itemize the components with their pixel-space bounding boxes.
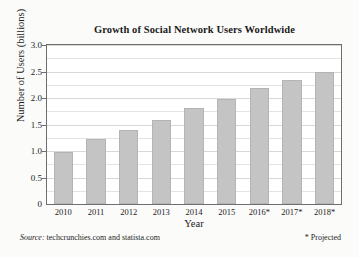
x-tick-label: 2016* (243, 207, 276, 217)
x-tick-label: 2018* (308, 207, 341, 217)
bar (54, 152, 74, 204)
chart-figure: Growth of Social Network Users Worldwide… (0, 0, 359, 257)
bar (119, 130, 139, 204)
bar (315, 72, 335, 205)
y-tick-label: 2.5 (2, 67, 42, 76)
source-label: Source: (20, 233, 45, 242)
x-tick-label: 2013 (145, 207, 178, 217)
y-axis-ticks: 00.51.01.52.02.53.0 (0, 44, 42, 205)
gridline (47, 72, 341, 73)
x-tick-label: 2014 (178, 207, 211, 217)
x-axis-title: Year (46, 218, 342, 229)
y-tick-label: 0 (2, 200, 42, 209)
x-tick-label: 2011 (80, 207, 113, 217)
bar (282, 80, 302, 204)
bar (184, 108, 204, 204)
projected-note: * Projected (305, 233, 341, 242)
y-tick-label: 2.0 (2, 94, 42, 103)
bar (152, 120, 172, 204)
plot-frame (46, 44, 342, 205)
y-tick-label: 1.0 (2, 147, 42, 156)
x-tick-label: 2012 (112, 207, 145, 217)
y-tick-label: 0.5 (2, 173, 42, 182)
gridline (47, 45, 341, 46)
chart-title: Growth of Social Network Users Worldwide (46, 24, 343, 35)
bar (217, 99, 237, 204)
source-note: Source: techcrunchies.com and statista.c… (20, 233, 160, 242)
source-text: techcrunchies.com and statista.com (47, 233, 160, 242)
gridline (47, 58, 341, 59)
bar (86, 139, 106, 204)
plot-area (47, 45, 341, 204)
y-tick-label: 1.5 (2, 120, 42, 129)
x-tick-label: 2017* (276, 207, 309, 217)
y-tick-label: 3.0 (2, 41, 42, 50)
x-tick-label: 2010 (47, 207, 80, 217)
x-tick-label: 2015 (210, 207, 243, 217)
bar (250, 88, 270, 204)
